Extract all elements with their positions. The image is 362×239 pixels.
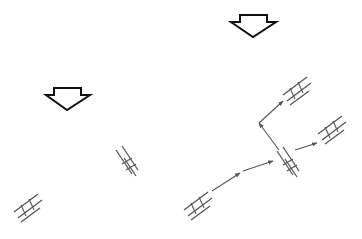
ladder-structure-3 [184,192,212,220]
ladder-structure-1 [14,194,42,222]
connector-arrows [212,101,317,191]
block-arrow-left [46,88,90,110]
connector-arrow-1 [212,173,240,191]
block-arrow-right [231,15,276,37]
connector-arrow-3 [259,123,279,150]
ladder-structure-4 [277,147,299,177]
ladder-structure-5 [283,77,311,105]
connector-arrow-5 [295,143,317,150]
ladder-structure-2 [116,146,138,176]
connector-arrow-4 [259,101,283,123]
connector-arrow-2 [243,161,273,171]
ladder-structure-6 [318,116,346,144]
diagram-canvas [0,0,362,239]
